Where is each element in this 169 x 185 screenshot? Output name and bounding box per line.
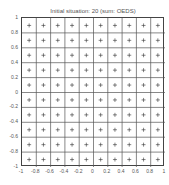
y-tick-label: 0.4 xyxy=(2,59,18,65)
plus-marker-icon xyxy=(142,23,146,27)
plus-marker-icon xyxy=(41,83,45,87)
plus-marker-icon xyxy=(84,38,88,42)
plus-marker-icon xyxy=(142,158,146,162)
plus-marker-icon xyxy=(70,98,74,102)
plus-marker-icon xyxy=(127,53,131,57)
y-tick-label: 0.8 xyxy=(2,29,18,35)
plus-marker-icon xyxy=(27,98,31,102)
plus-marker-icon xyxy=(113,128,117,132)
y-tick-label: -0.4 xyxy=(2,118,18,124)
plus-marker-icon xyxy=(27,83,31,87)
plus-marker-icon xyxy=(142,143,146,147)
plus-marker-icon xyxy=(156,68,160,72)
plus-marker-icon xyxy=(113,23,117,27)
plus-marker-icon xyxy=(41,158,45,162)
plus-marker-icon xyxy=(142,38,146,42)
plus-marker-icon xyxy=(70,113,74,117)
plus-marker-icon xyxy=(56,158,60,162)
plus-marker-icon xyxy=(142,83,146,87)
plus-marker-icon xyxy=(156,83,160,87)
plus-marker-icon xyxy=(27,23,31,27)
plus-marker-icon xyxy=(99,113,103,117)
plus-marker-icon xyxy=(84,83,88,87)
plus-marker-icon xyxy=(27,143,31,147)
plus-marker-icon xyxy=(99,128,103,132)
plus-marker-icon xyxy=(142,98,146,102)
plus-marker-icon xyxy=(127,113,131,117)
plus-marker-icon xyxy=(156,23,160,27)
plus-marker-icon xyxy=(99,68,103,72)
plus-marker-icon xyxy=(41,68,45,72)
plus-marker-icon xyxy=(113,83,117,87)
plus-marker-icon xyxy=(27,128,31,132)
plus-marker-icon xyxy=(41,53,45,57)
plus-marker-icon xyxy=(127,98,131,102)
plus-marker-icon xyxy=(56,113,60,117)
plus-marker-icon xyxy=(41,113,45,117)
chart-title: Initial situation: 20 (sum: OEDS) xyxy=(20,8,166,14)
plus-marker-icon xyxy=(84,68,88,72)
plus-marker-icon xyxy=(142,113,146,117)
plus-marker-icon xyxy=(156,98,160,102)
plus-marker-icon xyxy=(84,143,88,147)
plus-marker-icon xyxy=(156,53,160,57)
plus-marker-icon xyxy=(142,53,146,57)
plus-marker-icon xyxy=(113,53,117,57)
x-tick-label: 1 xyxy=(156,168,169,174)
plus-marker-icon xyxy=(127,68,131,72)
plus-marker-icon xyxy=(56,53,60,57)
plus-marker-icon xyxy=(127,128,131,132)
y-tick-label: 1 xyxy=(2,14,18,20)
plus-marker-icon xyxy=(99,143,103,147)
plus-marker-icon xyxy=(70,23,74,27)
plus-marker-icon xyxy=(84,98,88,102)
plot-area xyxy=(21,17,164,166)
plus-marker-icon xyxy=(41,38,45,42)
scatter-plot xyxy=(22,18,165,167)
plus-marker-icon xyxy=(127,158,131,162)
plus-marker-icon xyxy=(56,98,60,102)
plus-marker-icon xyxy=(84,128,88,132)
plus-marker-icon xyxy=(27,38,31,42)
plus-marker-icon xyxy=(113,158,117,162)
plus-marker-icon xyxy=(56,143,60,147)
plus-marker-icon xyxy=(70,53,74,57)
plus-marker-icon xyxy=(41,23,45,27)
plus-marker-icon xyxy=(56,38,60,42)
plus-marker-icon xyxy=(142,128,146,132)
plus-marker-icon xyxy=(27,68,31,72)
plus-marker-icon xyxy=(56,68,60,72)
plus-marker-icon xyxy=(142,68,146,72)
plus-marker-icon xyxy=(27,113,31,117)
plus-marker-icon xyxy=(113,68,117,72)
plus-marker-icon xyxy=(27,158,31,162)
plus-marker-icon xyxy=(113,113,117,117)
plus-marker-icon xyxy=(127,38,131,42)
plus-marker-icon xyxy=(27,53,31,57)
plus-marker-icon xyxy=(113,143,117,147)
plus-marker-icon xyxy=(99,158,103,162)
plus-marker-icon xyxy=(156,158,160,162)
plus-marker-icon xyxy=(41,143,45,147)
plus-marker-icon xyxy=(70,38,74,42)
plus-marker-icon xyxy=(41,128,45,132)
plus-marker-icon xyxy=(70,83,74,87)
plus-marker-icon xyxy=(99,98,103,102)
plus-marker-icon xyxy=(56,128,60,132)
plus-marker-icon xyxy=(99,38,103,42)
plus-marker-icon xyxy=(84,158,88,162)
plus-marker-icon xyxy=(156,38,160,42)
y-tick-label: 0 xyxy=(2,89,18,95)
plus-marker-icon xyxy=(127,83,131,87)
plus-marker-icon xyxy=(70,128,74,132)
plus-marker-icon xyxy=(56,23,60,27)
y-tick-label: 0.2 xyxy=(2,74,18,80)
plus-marker-icon xyxy=(41,98,45,102)
plus-marker-icon xyxy=(156,128,160,132)
plus-marker-icon xyxy=(70,158,74,162)
plus-marker-icon xyxy=(99,23,103,27)
y-tick-label: 0.6 xyxy=(2,44,18,50)
plus-marker-icon xyxy=(113,98,117,102)
plus-marker-icon xyxy=(84,53,88,57)
plus-marker-icon xyxy=(99,53,103,57)
